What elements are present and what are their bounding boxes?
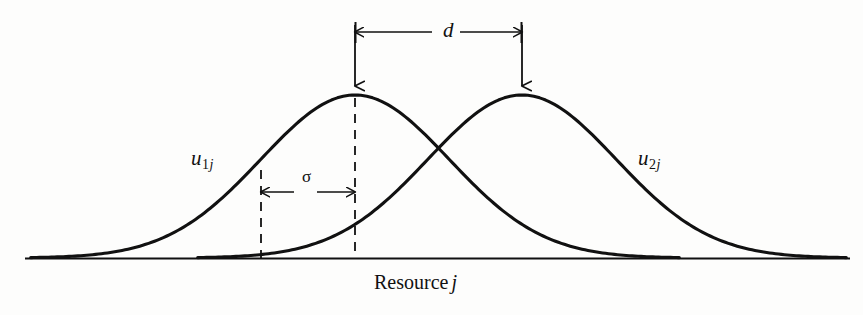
- curve-label-u1j-subscript: 1: [202, 157, 210, 172]
- curve-label-u1j-subscript-j: j: [209, 157, 213, 172]
- sigma-measure-label: σ: [297, 168, 316, 185]
- curve-label-u2j-subscript-j: j: [656, 157, 660, 172]
- curve-label-u2j-subscript: 2: [649, 157, 657, 172]
- utilization-curve-u2j: [198, 95, 847, 258]
- resource-axis-label-symbol: j: [448, 271, 457, 293]
- curve-label-u1j: u1j: [191, 148, 213, 172]
- resource-axis-label: Resourcej: [374, 272, 457, 292]
- niche-overlap-figure: [0, 0, 863, 315]
- resource-axis-label-text: Resource: [374, 271, 448, 293]
- d-measure-label: d: [437, 20, 460, 41]
- curve-label-u1j-base: u: [191, 146, 202, 170]
- figure-container: u1j u2j d σ Resourcej: [0, 0, 863, 315]
- curve-label-u2j: u2j: [638, 148, 660, 172]
- curve-label-u2j-base: u: [638, 146, 649, 170]
